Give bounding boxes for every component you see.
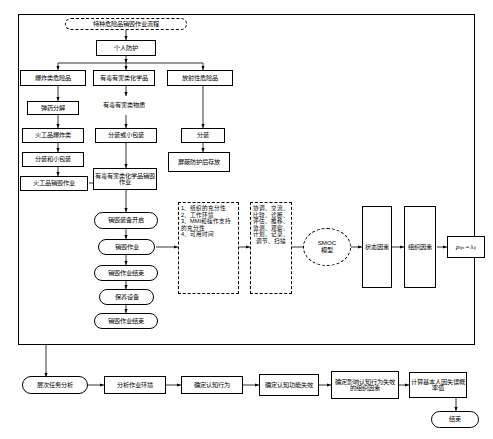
node-toxic-chemical-destruction: 有毒有害类化学品销毁作业 [93, 168, 157, 190]
node-subpack: 分装 [181, 128, 225, 143]
node-toxic-substance: 有毒有害类物质 [96, 96, 152, 115]
node-performance-factor-list: 1、组织的充分性 2、工作环境 3、MMI和操作支持的充分性 4、可用时间 [178, 202, 239, 294]
formula-equals: = [465, 243, 469, 251]
node-personal-protection: 个人防护 [96, 40, 156, 56]
node-equipment-startup: 销毁装备开启 [94, 212, 158, 229]
node-destruction-finished-1: 销毁作业结束 [94, 265, 158, 281]
node-shield-storage: 屏蔽防护后存放 [168, 152, 230, 172]
flow-step-task-analysis: 层次任务分析 [22, 376, 88, 394]
flow-step-end: 结束 [431, 411, 479, 428]
node-cognitive-action-list: 协调、交流、比较、诊断、评估、推移、监测、观察、计划、记录、调节、扫描 [250, 202, 292, 294]
node-probability-formula: pijn=λij [447, 236, 485, 258]
flow-step-calculate-hep: 计算基本人因失误概率值 [409, 372, 467, 398]
node-radioactive-dangerous-goods: 放射性危险品 [167, 70, 233, 86]
node-ammunition-decomposition: 弹药分解 [27, 101, 79, 115]
node-pyrotechnic-destruction: 火工品销毁作业 [20, 176, 88, 191]
node-pyrotechnic-explosive: 火工品爆炸类 [22, 128, 84, 143]
node-smoc-model: SMOC 模型 [303, 228, 351, 266]
node-subpack-or-small-package: 分装或小包装 [95, 128, 157, 143]
flow-step-determine-cognitive-failure: 确定认知功能失效 [259, 374, 319, 396]
formula-p-sub: ijn [460, 245, 465, 250]
formula-lambda-sub: ij [473, 245, 476, 250]
flow-step-determine-organization-factor: 确定影响认知行为失效的组织因素 [331, 371, 399, 399]
node-toxic-chemicals: 有毒有害类化学品 [93, 70, 155, 86]
node-organization-factor: 组织因素 [404, 206, 436, 288]
node-destruction-finished-2: 销毁作业结束 [94, 313, 158, 329]
node-destruction-operation: 销毁作业 [98, 239, 155, 255]
node-explosive-dangerous-goods: 爆炸类危险品 [20, 70, 86, 86]
node-state-factor: 状态因素 [362, 206, 392, 288]
node-subpack-and-small-package: 分装和小包装 [22, 152, 84, 167]
node-title: 特种危险品销毁作业流程 [65, 18, 187, 30]
node-equipment-maintenance: 保养设备 [99, 289, 154, 305]
flow-step-analyze-environment: 分析作业环境 [104, 376, 166, 394]
flow-step-determine-cognitive-behavior: 确定认知行为 [181, 376, 243, 394]
